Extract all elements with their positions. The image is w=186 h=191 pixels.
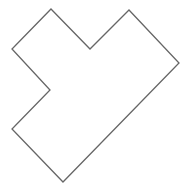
outlined-polygon-shape: [12, 9, 179, 182]
diagram-canvas: [0, 0, 186, 191]
shape-drawing: [0, 0, 186, 191]
